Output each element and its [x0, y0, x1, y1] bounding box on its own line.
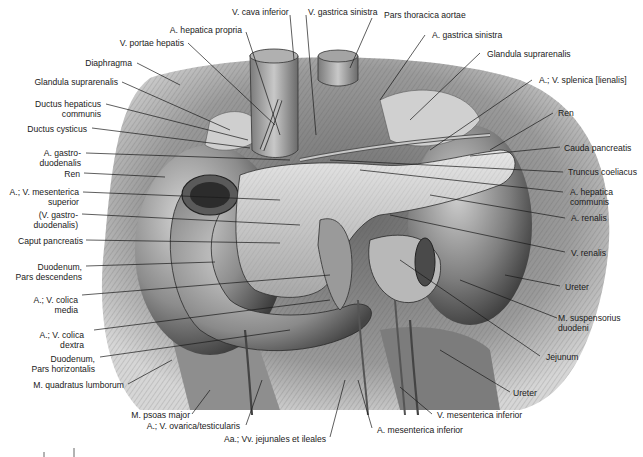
label-diaphragma: Diaphragma — [60, 58, 132, 68]
label-m-psoas-major: M. psoas major — [110, 410, 190, 420]
label-text: media — [2, 305, 78, 315]
label-glandula-suprarenalis-right: Glandula suprarenalis — [487, 49, 571, 59]
label-text: Glandula suprarenalis — [487, 49, 571, 59]
label-ren-left: Ren — [10, 169, 80, 179]
label-text: dextra — [2, 340, 84, 350]
label-text: Duodenum, — [2, 354, 95, 364]
label-text: V. mesenterica inferior — [437, 410, 522, 420]
label-av-colica-dextra: A.; V. colicadextra — [2, 330, 84, 350]
label-text: Ductus hepaticus — [10, 99, 101, 109]
label-a-gastroduodenalis: A. gastro-duodenalis — [10, 148, 81, 168]
label-text: A.; V. colica — [2, 295, 78, 305]
label-text: Aa.; Vv. jejunales et ileales — [200, 434, 326, 444]
label-text: duodenalis — [10, 158, 81, 168]
label-duodenum-pars-descendens: Duodenum,Pars descendens — [2, 262, 82, 282]
label-text: V. gastrica sinistra — [308, 7, 377, 17]
label-text: Jejunum — [546, 352, 578, 362]
label-text: A.; V. ovarica/testicularis — [120, 421, 240, 431]
label-text: superior — [2, 197, 79, 207]
label-v-mesenterica-inferior: V. mesenterica inferior — [437, 410, 522, 420]
label-av-splenica: A.; V. splenica [lienalis] — [539, 75, 627, 85]
label-ductus-hepaticus-communis: Ductus hepaticuscommunis — [10, 99, 101, 119]
label-glandula-suprarenalis-left: Glandula suprarenalis — [10, 77, 118, 87]
label-pars-thoracica-aortae: Pars thoracica aortae — [384, 10, 466, 20]
label-text: Glandula suprarenalis — [10, 77, 118, 87]
label-duodenum-pars-horizontalis: Duodenum,Pars horizontalis — [2, 354, 95, 374]
label-v-cava-inferior: V. cava inferior — [232, 7, 282, 17]
label-v-renalis: V. renalis — [571, 248, 606, 258]
label-text: communis — [10, 109, 101, 119]
label-m-suspensorius-duodeni: M. suspensoriusduodeni — [558, 313, 621, 333]
label-text: communis — [570, 197, 613, 207]
label-ureter-upper: Ureter — [565, 282, 589, 292]
label-m-quadratus-lumborum: M. quadratus lumborum — [2, 380, 124, 390]
label-a-gastrica-sinistra: A. gastrica sinistra — [432, 30, 502, 40]
label-ureter-lower: Ureter — [513, 388, 537, 398]
label-text: A. mesenterica inferior — [377, 425, 463, 435]
label-text: A.; V. mesenterica — [2, 187, 79, 197]
label-ren-right: Ren — [558, 108, 574, 118]
label-text: A. gastrica sinistra — [432, 30, 502, 40]
label-a-hepatica-propria: A. hepatica propria — [160, 25, 242, 35]
label-text: Duodenum, — [2, 262, 82, 272]
label-aa-vv-jejunales-ileales: Aa.; Vv. jejunales et ileales — [200, 434, 326, 444]
label-text: M. psoas major — [110, 410, 190, 420]
label-text: V. renalis — [571, 248, 606, 258]
label-av-mesenterica-superior: A.; V. mesentericasuperior — [2, 187, 79, 207]
label-av-ovarica-testicularis: A.; V. ovarica/testicularis — [120, 421, 240, 431]
label-text: A. hepatica — [570, 187, 613, 197]
label-v-portae-hepatis: V. portae hepatis — [80, 38, 184, 48]
label-text: Ductus cysticus — [10, 124, 87, 134]
label-caput-pancreatis: Caput pancreatis — [2, 236, 83, 246]
label-text: Ureter — [565, 282, 589, 292]
label-text: A. gastro- — [10, 148, 81, 158]
label-text: M. suspensorius — [558, 313, 621, 323]
label-text: A.; V. splenica [lienalis] — [539, 75, 627, 85]
label-a-mesenterica-inferior: A. mesenterica inferior — [377, 425, 463, 435]
label-a-hepatica-communis: A. hepaticacommunis — [570, 187, 613, 207]
label-text: M. quadratus lumborum — [2, 380, 124, 390]
anatomical-figure: V. cava inferior V. gastrica sinistra Pa… — [0, 0, 643, 457]
label-text: A.; V. colica — [2, 330, 84, 340]
label-text: A. renalis — [571, 213, 607, 223]
label-a-renalis: A. renalis — [571, 213, 607, 223]
label-text: Ren — [558, 108, 574, 118]
label-text: Pars descendens — [2, 272, 82, 282]
label-text: Ren — [10, 169, 80, 179]
label-text: Truncus coeliacus — [568, 167, 637, 177]
label-v-gastroduodenalis: (V. gastro-duodenalis) — [2, 210, 78, 230]
label-text: V. cava inferior — [232, 7, 282, 17]
label-text: (V. gastro- — [2, 210, 78, 220]
label-text: Pars horizontalis — [2, 364, 95, 374]
label-text: Caput pancreatis — [2, 236, 83, 246]
label-text: V. portae hepatis — [80, 38, 184, 48]
label-v-gastrica-sinistra: V. gastrica sinistra — [308, 7, 377, 17]
label-text: Diaphragma — [60, 58, 132, 68]
label-text: Ureter — [513, 388, 537, 398]
label-av-colica-media: A.; V. colicamedia — [2, 295, 78, 315]
label-text: A. hepatica propria — [160, 25, 242, 35]
label-text: Pars thoracica aortae — [384, 10, 466, 20]
label-cauda-pancreatis: Cauda pancreatis — [564, 143, 631, 153]
label-ductus-cysticus: Ductus cysticus — [10, 124, 87, 134]
label-text: Cauda pancreatis — [564, 143, 631, 153]
label-text: duodeni — [558, 323, 621, 333]
label-truncus-coeliacus: Truncus coeliacus — [568, 167, 637, 177]
label-text: duodenalis) — [2, 220, 78, 230]
label-jejunum: Jejunum — [546, 352, 578, 362]
